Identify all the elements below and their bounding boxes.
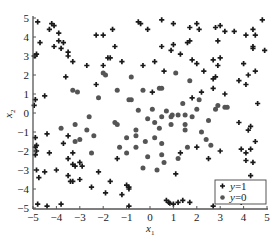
plus-point <box>241 61 246 66</box>
scatter-chart: 543210−1−2−3−4−5 −5−4−3−2−1012345 x1 x2 … <box>0 0 279 242</box>
plus-point <box>194 61 199 66</box>
plus-point <box>110 27 115 32</box>
y-tick-label: 1 <box>24 88 30 100</box>
circle-point <box>150 107 155 112</box>
circle-point <box>145 116 150 121</box>
plus-point <box>70 59 75 64</box>
circle-point <box>91 133 96 138</box>
circle-point <box>185 145 190 150</box>
plus-point <box>42 93 47 98</box>
circle-point <box>124 150 129 155</box>
circle-point <box>133 133 138 138</box>
plus-point <box>262 48 267 53</box>
circle-point <box>115 88 120 93</box>
circle-point <box>59 126 64 131</box>
svg-text:y=0: y=0 <box>229 191 247 203</box>
plus-point <box>199 90 204 95</box>
circle-point <box>103 73 108 78</box>
x-axis-label: x1 <box>145 222 155 237</box>
circle-point <box>152 135 157 140</box>
plus-point <box>145 27 150 32</box>
plus-point <box>66 53 71 58</box>
circle-point <box>215 103 220 108</box>
plus-point <box>119 192 124 197</box>
circle-point <box>199 130 204 135</box>
y-tick-label: −4 <box>17 183 29 195</box>
plus-point <box>248 147 253 152</box>
y-tick-label: 0 <box>24 107 30 119</box>
plus-point <box>54 167 59 172</box>
circle-point <box>70 88 75 93</box>
plus-point <box>126 204 131 209</box>
plus-point <box>222 29 227 34</box>
circle-point <box>162 160 167 165</box>
circle-point <box>136 108 141 113</box>
circle-point <box>187 78 192 83</box>
circle-point <box>157 126 162 131</box>
circle-point <box>159 86 164 91</box>
circle-point <box>133 145 138 150</box>
circle-point <box>77 137 82 142</box>
plus-point <box>89 185 94 190</box>
circle-point <box>170 112 175 117</box>
plus-point <box>197 27 202 32</box>
y-tick-label: 4 <box>24 31 30 43</box>
circle-point <box>173 71 178 76</box>
plus-point <box>194 145 199 150</box>
plus-point <box>159 44 164 49</box>
plus-point <box>47 150 52 155</box>
plus-point <box>248 173 253 178</box>
circle-point <box>206 118 211 123</box>
plus-point <box>175 200 180 205</box>
plus-point <box>218 148 223 153</box>
x-tick-label: −4 <box>51 211 63 223</box>
plus-point <box>161 69 166 74</box>
plus-point <box>36 175 41 180</box>
circle-point <box>159 114 164 119</box>
circle-point <box>84 128 89 133</box>
x-tick-label: −2 <box>97 211 109 223</box>
x-tick-label: 4 <box>241 211 247 223</box>
circle-point <box>152 120 157 125</box>
circle-point <box>183 112 188 117</box>
x-tick-label: 3 <box>217 211 223 223</box>
plus-point <box>171 42 176 47</box>
plus-point <box>150 90 155 95</box>
circle-point <box>145 154 150 159</box>
plus-point <box>250 160 255 165</box>
circle-point <box>129 74 134 79</box>
x-tick-label: −3 <box>74 211 86 223</box>
circle-point <box>73 122 78 127</box>
svg-text:x2: x2 <box>2 109 17 119</box>
plus-point <box>187 200 192 205</box>
circle-point <box>124 135 129 140</box>
y-tick-label: −2 <box>17 145 29 157</box>
plus-point <box>66 156 71 161</box>
plus-point <box>96 169 101 174</box>
plus-point <box>253 139 258 144</box>
plus-point <box>253 69 258 74</box>
plus-point <box>222 91 227 96</box>
circle-point <box>129 97 134 102</box>
plus-point <box>108 179 113 184</box>
plus-point <box>61 40 66 45</box>
plus-point <box>236 78 241 83</box>
circle-point <box>208 143 213 148</box>
x-tick-label: 2 <box>194 211 200 223</box>
circle-point <box>117 145 122 150</box>
plus-point <box>119 59 124 64</box>
plus-point <box>103 190 108 195</box>
x-tick-label: 1 <box>171 211 177 223</box>
plus-point <box>215 38 220 43</box>
plus-point <box>58 46 63 51</box>
circle-point <box>89 150 94 155</box>
y-tick-label: 3 <box>24 50 30 62</box>
circle-point <box>180 101 185 106</box>
legend: y=1 y=0 <box>215 180 266 204</box>
x-tick-label: −5 <box>27 211 39 223</box>
plus-point <box>94 33 99 38</box>
plus-point <box>152 59 157 64</box>
plus-point <box>140 63 145 68</box>
circle-point <box>183 128 188 133</box>
circle-point <box>183 122 188 127</box>
